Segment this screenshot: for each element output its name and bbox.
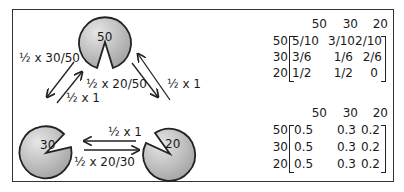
col-header: 30 xyxy=(338,17,358,31)
row-header: 50 xyxy=(272,34,288,48)
node-30-pie xyxy=(20,126,72,178)
row-header: 30 xyxy=(272,50,288,64)
matrix-cell: 5/10 xyxy=(292,34,324,48)
matrix-cell: 0.5 xyxy=(294,140,322,154)
matrix-right-bracket xyxy=(381,125,386,173)
edge-label-50-to-30: ½ x 30/50 xyxy=(19,51,80,65)
matrix-cell: 0.3 xyxy=(330,140,356,154)
col-header: 30 xyxy=(338,106,358,120)
matrix-cell: 0.3 xyxy=(330,157,356,171)
col-header: 50 xyxy=(307,106,327,120)
node-30-label: 30 xyxy=(40,138,55,152)
edge-label-20-to-50: ½ x 1 xyxy=(167,77,201,91)
matrix-cell: 3/10 xyxy=(325,34,355,48)
row-header: 50 xyxy=(272,123,288,137)
matrix-cell: 2/10 xyxy=(352,34,382,48)
matrix-cell: 1/6 xyxy=(325,50,353,64)
col-header: 50 xyxy=(307,17,327,31)
matrix-cell: 0.5 xyxy=(294,157,322,171)
matrix-cell: 0.5 xyxy=(294,123,322,137)
matrix-cell: 0.2 xyxy=(354,157,380,171)
row-header: 20 xyxy=(272,66,288,80)
matrix-cell: 1/2 xyxy=(292,66,324,80)
node-20-label: 20 xyxy=(165,137,180,151)
edge-label-50-to-20: ½ x 20/50 xyxy=(86,77,147,91)
node-50-label: 50 xyxy=(97,30,112,44)
matrix-cell: 1/2 xyxy=(325,66,353,80)
col-header: 20 xyxy=(368,106,388,120)
edge-label-20-to-30: ½ x 1 xyxy=(108,125,142,139)
edge-label-30-to-50: ½ x 1 xyxy=(66,91,100,105)
col-header: 20 xyxy=(368,17,388,31)
row-header: 20 xyxy=(272,157,288,171)
matrix-cell: 0.2 xyxy=(354,123,380,137)
matrix-cell: 0.3 xyxy=(330,123,356,137)
edge-label-30-to-20: ½ x 20/30 xyxy=(74,155,135,169)
matrix-cell: 0 xyxy=(352,66,378,80)
matrix-cell: 3/6 xyxy=(292,50,324,64)
matrix-cell: 2/6 xyxy=(352,50,382,64)
row-header: 30 xyxy=(272,140,288,154)
matrix-cell: 0.2 xyxy=(354,140,380,154)
